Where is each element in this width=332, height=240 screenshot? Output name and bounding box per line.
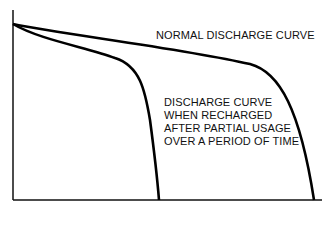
normal-curve-label: NORMAL DISCHARGE CURVE — [156, 28, 315, 42]
partial-curve-label-4: OVER A PERIOD OF TIME — [164, 134, 299, 148]
partial-curve-label-3: AFTER PARTIAL USAGE — [164, 121, 291, 135]
partial-curve-label-1: DISCHARGE CURVE — [164, 95, 272, 109]
partial-usage-curve — [13, 24, 159, 200]
partial-curve-label-2: WHEN RECHARGED — [164, 108, 272, 122]
